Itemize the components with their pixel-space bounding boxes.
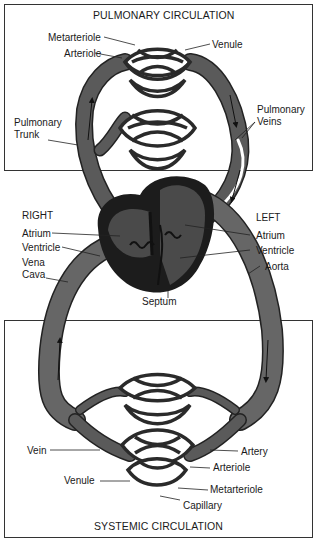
label-right-atrium: Atrium <box>22 228 51 239</box>
heart <box>98 176 214 292</box>
label-pulmonary-trunk-line2: Trunk <box>14 129 39 140</box>
label-left-atrium: Atrium <box>256 230 285 241</box>
label-left-ventricle: Ventricle <box>256 245 294 256</box>
label-artery: Artery <box>241 446 268 457</box>
pulmonary-capillary-bed-lower <box>120 111 195 169</box>
systemic-capillary-bed-upper <box>120 375 195 424</box>
systemic-capillary-bed-lower <box>122 430 193 485</box>
label-right-ventricle: Ventricle <box>22 242 60 253</box>
label-capillary: Capillary <box>183 500 222 511</box>
label-vena-cava-line2: Cava <box>22 269 45 280</box>
label-left-side: LEFT <box>256 212 280 223</box>
label-vena-cava-line1: Vena <box>22 257 45 268</box>
label-right-side: RIGHT <box>22 210 53 221</box>
label-metarteriole-pulmonary: Metarteriole <box>48 32 101 43</box>
label-pulmonary-veins-line2: Veins <box>257 116 281 127</box>
label-venule-systemic: Venule <box>64 475 95 486</box>
label-vein: Vein <box>27 445 46 456</box>
systemic-title: SYSTEMIC CIRCULATION <box>94 521 223 532</box>
pulmonary-title: PULMONARY CIRCULATION <box>93 10 235 21</box>
label-septum: Septum <box>142 296 176 307</box>
pulmonary-capillary-bed-upper <box>125 49 190 96</box>
label-aorta: Aorta <box>265 261 289 272</box>
label-pulmonary-veins-line1: Pulmonary <box>257 104 305 115</box>
label-venule-pulmonary: Venule <box>212 39 243 50</box>
label-pulmonary-trunk-line1: Pulmonary <box>14 117 62 128</box>
label-metarteriole-systemic: Metarteriole <box>210 484 263 495</box>
label-arteriole-pulmonary: Arteriole <box>64 48 101 59</box>
label-arteriole-systemic: Arteriole <box>213 462 250 473</box>
